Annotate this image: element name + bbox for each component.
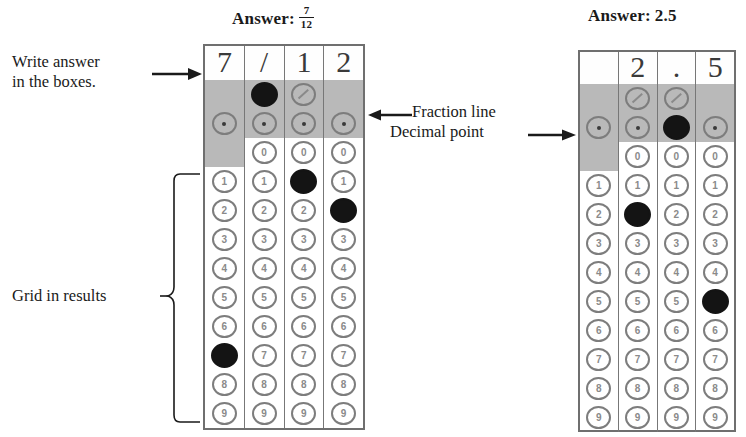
bubble-cell[interactable] xyxy=(580,113,618,142)
bubble-cell[interactable]: 3 xyxy=(696,229,734,258)
bubble-6[interactable]: 6 xyxy=(586,319,611,342)
bubble-decimal-point[interactable] xyxy=(331,112,356,135)
bubble-cell[interactable] xyxy=(285,80,324,109)
bubble-7[interactable]: 7 xyxy=(625,348,650,371)
bubble-fraction-line-filled[interactable] xyxy=(251,82,278,107)
bubble-1-filled[interactable]: 1 xyxy=(290,169,317,194)
bubble-2[interactable]: 2 xyxy=(703,203,728,226)
bubble-cell[interactable]: 5 xyxy=(205,283,244,312)
bubble-6[interactable]: 6 xyxy=(252,315,277,338)
bubble-cell[interactable]: 3 xyxy=(324,225,363,254)
bubble-cell[interactable]: 4 xyxy=(324,254,363,283)
bubble-7[interactable]: 7 xyxy=(331,344,356,367)
bubble-9[interactable]: 9 xyxy=(252,402,277,425)
bubble-cell[interactable]: 3 xyxy=(245,225,284,254)
bubble-decimal-point[interactable] xyxy=(212,112,237,135)
bubble-cell[interactable]: 9 xyxy=(245,399,284,428)
bubble-9[interactable]: 9 xyxy=(331,402,356,425)
bubble-cell[interactable]: 8 xyxy=(580,374,618,403)
bubble-cell[interactable]: 6 xyxy=(245,312,284,341)
bubble-0[interactable]: 0 xyxy=(331,141,356,164)
bubble-cell[interactable]: 8 xyxy=(205,370,244,399)
bubble-cell[interactable]: 5 xyxy=(658,287,696,316)
bubble-decimal-point[interactable] xyxy=(703,116,728,139)
bubble-3[interactable]: 3 xyxy=(252,228,277,251)
bubble-5[interactable]: 5 xyxy=(586,290,611,313)
bubble-1[interactable]: 1 xyxy=(625,174,650,197)
bubble-8[interactable]: 8 xyxy=(291,373,316,396)
bubble-cell[interactable]: 9 xyxy=(696,403,734,432)
bubble-6[interactable]: 6 xyxy=(703,319,728,342)
bubble-4[interactable]: 4 xyxy=(331,257,356,280)
bubble-cell[interactable] xyxy=(658,84,696,113)
bubble-cell[interactable]: 6 xyxy=(619,316,657,345)
bubble-1[interactable]: 1 xyxy=(664,174,689,197)
bubble-1[interactable]: 1 xyxy=(212,170,237,193)
bubble-cell[interactable]: 1 xyxy=(580,171,618,200)
bubble-4[interactable]: 4 xyxy=(291,257,316,280)
bubble-cell[interactable] xyxy=(619,113,657,142)
bubble-1[interactable]: 1 xyxy=(252,170,277,193)
bubble-cell[interactable]: 6 xyxy=(696,316,734,345)
bubble-cell[interactable] xyxy=(696,113,734,142)
bubble-0[interactable]: 0 xyxy=(625,145,650,168)
bubble-8[interactable]: 8 xyxy=(212,373,237,396)
bubble-8[interactable]: 8 xyxy=(703,377,728,400)
bubble-cell[interactable]: 7 xyxy=(580,345,618,374)
bubble-cell[interactable]: 3 xyxy=(205,225,244,254)
bubble-9[interactable]: 9 xyxy=(625,406,650,429)
bubble-decimal-point-filled[interactable] xyxy=(663,115,690,140)
bubble-cell[interactable]: 8 xyxy=(285,370,324,399)
bubble-4[interactable]: 4 xyxy=(664,261,689,284)
handwritten-cell-3[interactable]: . xyxy=(657,52,696,84)
bubble-cell[interactable]: 5 xyxy=(245,283,284,312)
bubble-cell[interactable]: 5 xyxy=(696,287,734,316)
bubble-7[interactable]: 7 xyxy=(291,344,316,367)
bubble-cell[interactable]: 4 xyxy=(658,258,696,287)
bubble-cell[interactable]: 6 xyxy=(285,312,324,341)
bubble-cell[interactable]: 0 xyxy=(324,138,363,167)
bubble-cell[interactable]: 4 xyxy=(580,258,618,287)
bubble-cell[interactable]: 2 xyxy=(324,196,363,225)
bubble-fraction-line[interactable] xyxy=(291,83,316,106)
bubble-4[interactable]: 4 xyxy=(212,257,237,280)
bubble-cell[interactable]: 1 xyxy=(324,167,363,196)
bubble-fraction-line[interactable] xyxy=(625,87,650,110)
bubble-cell[interactable] xyxy=(205,109,244,138)
bubble-0[interactable]: 0 xyxy=(703,145,728,168)
bubble-1[interactable]: 1 xyxy=(703,174,728,197)
bubble-cell[interactable]: 4 xyxy=(205,254,244,283)
handwritten-cell-1[interactable] xyxy=(580,52,618,84)
bubble-cell[interactable] xyxy=(324,109,363,138)
bubble-7[interactable]: 7 xyxy=(586,348,611,371)
bubble-cell[interactable] xyxy=(619,84,657,113)
bubble-cell[interactable]: 5 xyxy=(580,287,618,316)
bubble-cell[interactable]: 2 xyxy=(619,200,657,229)
bubble-cell[interactable]: 4 xyxy=(696,258,734,287)
bubble-cell[interactable]: 7 xyxy=(245,341,284,370)
bubble-cell[interactable]: 9 xyxy=(324,399,363,428)
bubble-2-filled[interactable]: 2 xyxy=(624,202,651,227)
bubble-cell[interactable]: 8 xyxy=(619,374,657,403)
bubble-cell[interactable]: 2 xyxy=(245,196,284,225)
bubble-cell[interactable]: 9 xyxy=(205,399,244,428)
handwritten-cell-4[interactable]: 5 xyxy=(695,52,734,84)
bubble-cell[interactable]: 6 xyxy=(205,312,244,341)
bubble-cell[interactable]: 1 xyxy=(245,167,284,196)
bubble-cell[interactable]: 7 xyxy=(285,341,324,370)
bubble-5[interactable]: 5 xyxy=(291,286,316,309)
handwritten-cell-2[interactable]: / xyxy=(244,46,284,80)
bubble-5[interactable]: 5 xyxy=(625,290,650,313)
bubble-decimal-point[interactable] xyxy=(586,116,611,139)
bubble-cell[interactable]: 6 xyxy=(580,316,618,345)
bubble-cell[interactable]: 7 xyxy=(619,345,657,374)
bubble-cell[interactable]: 1 xyxy=(619,171,657,200)
bubble-7-filled[interactable]: 7 xyxy=(211,343,238,368)
bubble-cell[interactable]: 9 xyxy=(580,403,618,432)
bubble-cell[interactable]: 8 xyxy=(658,374,696,403)
bubble-cell[interactable]: 6 xyxy=(324,312,363,341)
bubble-cell[interactable]: 9 xyxy=(658,403,696,432)
bubble-cell[interactable]: 7 xyxy=(696,345,734,374)
bubble-5[interactable]: 5 xyxy=(331,286,356,309)
bubble-cell[interactable]: 3 xyxy=(580,229,618,258)
